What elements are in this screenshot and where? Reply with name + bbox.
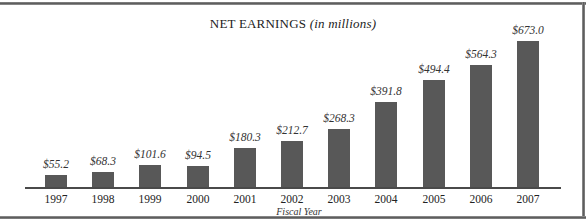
plot-area: $55.21997$68.31998$101.61999$94.52000$18…	[0, 0, 586, 223]
x-axis-line	[25, 187, 561, 189]
bar-2002	[281, 141, 303, 187]
bar-value-label: $212.7	[262, 124, 322, 136]
bar-2003	[328, 129, 350, 187]
x-axis-label: Fiscal Year	[0, 206, 586, 217]
bar-value-label: $94.5	[168, 149, 228, 161]
bar-1999	[139, 165, 161, 187]
bar-1997	[45, 175, 67, 187]
bar-2006	[470, 65, 492, 187]
bar-2007	[517, 41, 539, 187]
bar-value-label: $673.0	[498, 24, 558, 36]
bar-value-label: $391.8	[356, 85, 416, 97]
bar-2005	[423, 80, 445, 187]
bar-value-label: $564.3	[451, 48, 511, 60]
bar-1998	[92, 172, 114, 187]
bar-2000	[187, 166, 209, 187]
bar-value-label: $494.4	[404, 63, 464, 75]
bar-2004	[375, 102, 397, 187]
bar-2001	[234, 148, 256, 187]
bar-value-label: $268.3	[309, 112, 369, 124]
x-tick-label: 2007	[498, 193, 558, 205]
